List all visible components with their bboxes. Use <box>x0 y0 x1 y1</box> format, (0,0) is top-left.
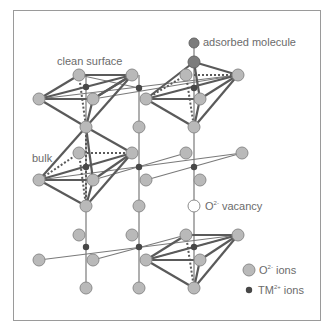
legend-o-ion-icon <box>243 264 255 276</box>
legend-o-ions: O2- ions <box>259 265 296 276</box>
vacancy-suffix: vacancy <box>219 200 262 212</box>
legend-o-charge: 2- <box>268 264 273 270</box>
legend-tm-ion-icon <box>246 287 252 293</box>
vacancy-prefix: O <box>205 200 214 212</box>
legend-o-suffix: ions <box>273 264 296 276</box>
legend-o-prefix: O <box>259 264 268 276</box>
adsorbed-molecule-text: adsorbed molecule <box>203 36 296 48</box>
clean-surface-label: clean surface <box>57 56 122 67</box>
legend-tm-ions: TM2+ ions <box>258 285 304 296</box>
octahedron-adsorbed <box>146 62 238 127</box>
bulk-text: bulk <box>32 152 52 164</box>
octahedron-bottom <box>146 235 238 288</box>
o-vacancy-icon <box>188 200 200 212</box>
vacancy-label: O2- vacancy <box>205 201 262 212</box>
adsorbed-molecule-label: adsorbed molecule <box>203 37 296 48</box>
vacancy-charge: 2- <box>214 200 219 206</box>
legend-tm-charge: 2+ <box>274 284 281 290</box>
clean-surface-text: clean surface <box>57 55 122 67</box>
tm-ions <box>83 84 197 250</box>
legend-tm-prefix: TM <box>258 284 274 296</box>
bulk-label: bulk <box>32 153 52 164</box>
legend-tm-suffix: ions <box>281 284 304 296</box>
